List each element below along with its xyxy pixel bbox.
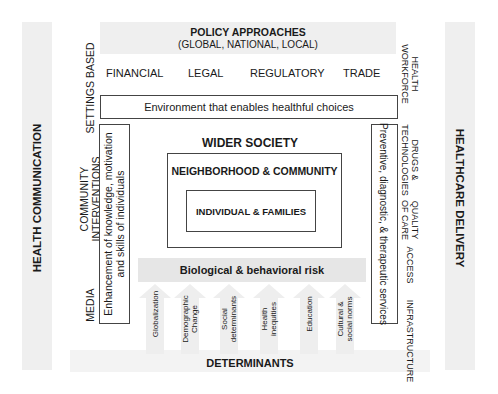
preventive-services-text: Preventive, diagnostic, & therapeutic se… [376, 125, 392, 323]
risk-label: Biological & behavioral risk [180, 264, 324, 276]
settings-based-label: SETTINGS BASED [82, 38, 98, 138]
infrastructure-label: INFRASTRUCTURE [403, 291, 417, 391]
determinant-globalization: Globalization [149, 279, 161, 349]
policy-subtitle: (GLOBAL, NATIONAL, LOCAL) [100, 39, 396, 50]
determinants-title: DETERMINANTS [150, 357, 350, 369]
healthcare-delivery-label: HEALTHCARE DELIVERY [450, 24, 470, 372]
enhancement-text: Enhancement of knowledge, motivation and… [100, 125, 128, 323]
risk-band: Biological & behavioral risk [138, 258, 366, 282]
access-label: ACCESS [403, 235, 417, 295]
environment-box: Environment that enables healthful choic… [100, 95, 398, 119]
health-communication-label: HEALTH COMMUNICATION [27, 24, 47, 372]
policy-item-regulatory: REGULATORY [250, 67, 325, 79]
drugs-technologies-label: DRUGS & TECHNOLOGIES [398, 125, 422, 195]
individual-families-label: INDIVIDUAL & FAMILIES [196, 206, 306, 217]
policy-title: POLICY APPROACHES [100, 26, 396, 38]
determinant-demographic-change: Demographic Change [179, 284, 201, 354]
determinant-health-inequities: Health inequities [258, 284, 280, 354]
determinant-cultural-social-norms: Cultural & social norms [334, 284, 356, 354]
individual-families-box: INDIVIDUAL & FAMILIES [186, 190, 316, 232]
determinant-education: Education [303, 279, 315, 349]
policy-item-financial: FINANCIAL [106, 67, 163, 79]
policy-item-legal: LEGAL [188, 67, 223, 79]
neighborhood-community-label: NEIGHBORHOOD & COMMUNITY [167, 165, 342, 177]
media-label: MEDIA [82, 265, 98, 345]
determinant-social-determinants: Social determinants [218, 284, 240, 354]
health-workforce-label: HEALTH WORKFORCE [398, 44, 422, 104]
wider-society-label: WIDER SOCIETY [150, 136, 350, 150]
policy-item-trade: TRADE [343, 67, 380, 79]
